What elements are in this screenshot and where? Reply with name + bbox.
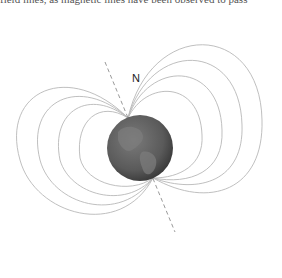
north-pole-label: N bbox=[132, 72, 140, 84]
earth-globe bbox=[107, 115, 173, 181]
magnetic-field-diagram: N bbox=[0, 0, 282, 278]
